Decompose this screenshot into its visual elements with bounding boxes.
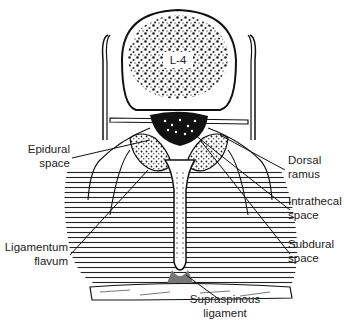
label-subdural-space: Subdural space [288, 237, 334, 265]
label-intrathecal-space: Intrathecal space [288, 194, 342, 222]
label-epidural-space: Epidural space [0, 142, 70, 170]
spine-cross-section-diagram: L-4 Epidural space Ligamentum flavum Dor… [0, 0, 344, 325]
label-ligamentum-flavum: Ligamentum flavum [0, 240, 68, 268]
label-supraspinous-ligament: Supraspinous ligament [175, 292, 275, 320]
vertebra-label: L-4 [163, 53, 193, 67]
label-dorsal-ramus: Dorsal ramus [288, 153, 321, 181]
